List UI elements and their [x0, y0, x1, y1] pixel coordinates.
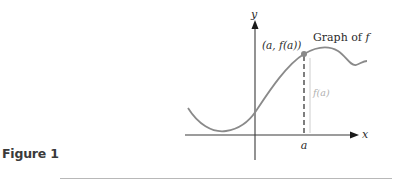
- point-a-fa: [301, 51, 307, 57]
- curve-label-func: f: [364, 31, 371, 44]
- curve-label: Graph of f: [313, 31, 371, 44]
- height-label: f(a): [312, 87, 330, 98]
- divider: [60, 178, 392, 179]
- y-axis-arrow-icon: [252, 20, 259, 29]
- figure-caption: Figure 1: [2, 146, 59, 161]
- x-axis-label: x: [362, 128, 369, 141]
- tick-label-a: a: [301, 139, 308, 152]
- x-axis-arrow-icon: [350, 132, 359, 139]
- y-axis-label: y: [250, 8, 258, 21]
- curve-f: [188, 47, 367, 131]
- point-label: (a, f(a)): [262, 39, 301, 51]
- curve-label-prefix: Graph of: [313, 31, 365, 44]
- graph-of-f-diagram: y x (a, f(a)) Graph of f f(a) a: [0, 0, 394, 191]
